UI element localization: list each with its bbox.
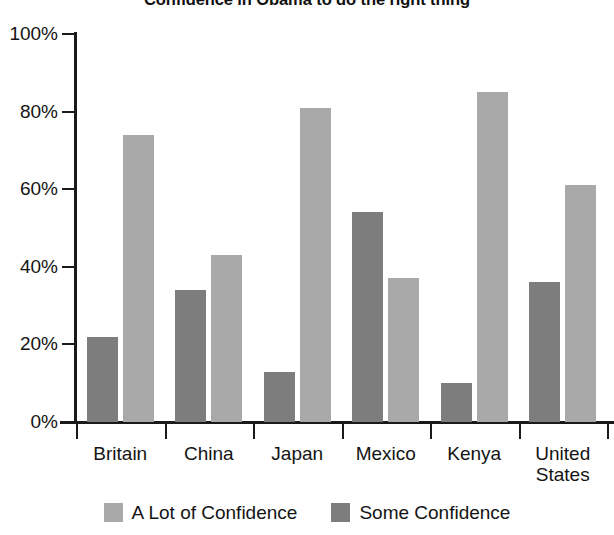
- bar-united-states-some: [529, 282, 560, 422]
- legend-swatch-icon: [331, 503, 350, 522]
- chart-title: Confidence in Obama to do the right thin…: [0, 0, 614, 8]
- x-axis-separator: [519, 423, 521, 439]
- x-axis-separator: [607, 423, 609, 439]
- y-axis-tick: [62, 343, 76, 345]
- y-axis-tick-label: 100%: [9, 24, 58, 43]
- legend-item: A Lot of Confidence: [104, 503, 298, 522]
- bar-mexico-alot: [388, 278, 419, 422]
- bar-kenya-alot: [477, 92, 508, 422]
- x-axis-label-line: China: [165, 443, 254, 464]
- plot-area: [76, 34, 607, 422]
- x-axis-label-line: Kenya: [430, 443, 519, 464]
- y-axis-tick: [62, 266, 76, 268]
- x-axis-label: Japan: [253, 443, 342, 464]
- x-axis-label: Kenya: [430, 443, 519, 464]
- legend-item: Some Confidence: [331, 503, 510, 522]
- legend-swatch-icon: [104, 503, 123, 522]
- bar-chart: Confidence in Obama to do the right thin…: [0, 0, 614, 535]
- bar-china-some: [175, 290, 206, 422]
- y-axis-tick-label: 20%: [20, 334, 58, 353]
- chart-legend: A Lot of ConfidenceSome Confidence: [0, 503, 614, 522]
- bar-mexico-some: [352, 212, 383, 422]
- bar-china-alot: [211, 255, 242, 422]
- x-axis-label-line: Britain: [76, 443, 165, 464]
- bar-japan-alot: [300, 108, 331, 422]
- bar-britain-alot: [123, 135, 154, 422]
- x-axis-separator: [342, 423, 344, 439]
- legend-label: Some Confidence: [359, 503, 510, 522]
- x-axis-label: China: [165, 443, 254, 464]
- x-axis-label: Britain: [76, 443, 165, 464]
- x-axis-label-line: Japan: [253, 443, 342, 464]
- bar-united-states-alot: [565, 185, 596, 422]
- x-axis-separator: [430, 423, 432, 439]
- y-axis-tick-label: 60%: [20, 179, 58, 198]
- x-axis-label: UnitedStates: [519, 443, 608, 485]
- y-axis-tick: [62, 33, 76, 35]
- x-axis-separator: [165, 423, 167, 439]
- x-axis-separator: [253, 423, 255, 439]
- y-axis-tick-label: 40%: [20, 257, 58, 276]
- bar-britain-some: [87, 337, 118, 422]
- x-axis-separator: [76, 423, 78, 439]
- y-axis-tick: [62, 188, 76, 190]
- y-axis-tick: [62, 421, 76, 423]
- x-axis-label-line: Mexico: [342, 443, 431, 464]
- bar-kenya-some: [441, 383, 472, 422]
- y-axis-tick: [62, 111, 76, 113]
- legend-label: A Lot of Confidence: [132, 503, 298, 522]
- x-axis-label-line: States: [519, 464, 608, 485]
- y-axis-tick-label: 80%: [20, 102, 58, 121]
- x-axis-label-line: United: [519, 443, 608, 464]
- y-axis-tick-label: 0%: [31, 412, 58, 431]
- bar-japan-some: [264, 372, 295, 422]
- x-axis-label: Mexico: [342, 443, 431, 464]
